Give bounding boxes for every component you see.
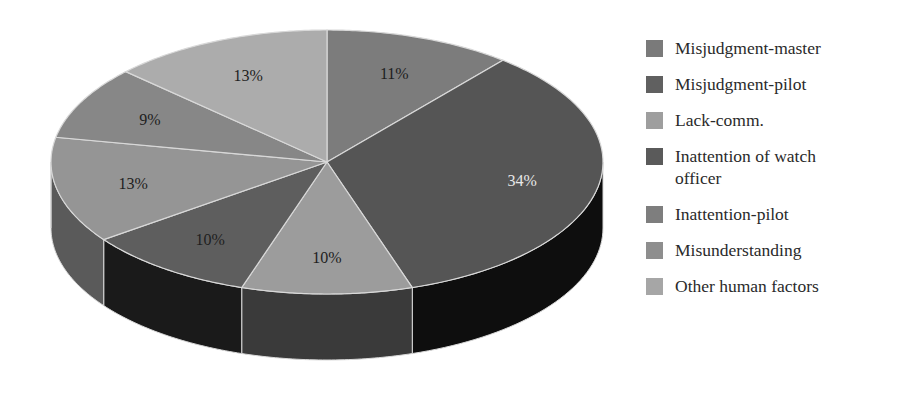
pie-data-label: 13% bbox=[118, 175, 147, 192]
legend-item: Lack-comm. bbox=[646, 109, 896, 131]
pie-data-label: 34% bbox=[508, 172, 537, 189]
legend-label: Other human factors bbox=[675, 275, 819, 297]
legend-label: Lack-comm. bbox=[675, 109, 764, 131]
pie-data-label: 9% bbox=[139, 111, 160, 128]
pie-data-label: 10% bbox=[196, 231, 225, 248]
legend-label: Inattention of watch officer bbox=[675, 145, 835, 189]
legend-label: Inattention-pilot bbox=[675, 203, 789, 225]
legend-item: Misjudgment-master bbox=[646, 37, 896, 59]
legend-item: Inattention of watch officer bbox=[646, 145, 896, 189]
pie-data-label: 10% bbox=[312, 249, 341, 266]
pie-chart-3d: 11%34%10%10%13%9%13% bbox=[0, 0, 640, 396]
legend-label: Misjudgment-pilot bbox=[675, 73, 806, 95]
legend-label: Misjudgment-master bbox=[675, 37, 821, 59]
legend-swatch bbox=[646, 242, 663, 259]
legend-item: Misunderstanding bbox=[646, 239, 896, 261]
legend-item: Other human factors bbox=[646, 275, 896, 297]
legend-swatch bbox=[646, 76, 663, 93]
chart-legend: Misjudgment-master Misjudgment-pilot Lac… bbox=[646, 37, 896, 311]
legend-swatch bbox=[646, 112, 663, 129]
pie-slice-side bbox=[242, 288, 413, 360]
legend-swatch bbox=[646, 148, 663, 165]
legend-item: Inattention-pilot bbox=[646, 203, 896, 225]
pie-data-label: 13% bbox=[233, 67, 262, 84]
legend-swatch bbox=[646, 206, 663, 223]
legend-label: Misunderstanding bbox=[675, 239, 801, 261]
legend-item: Misjudgment-pilot bbox=[646, 73, 896, 95]
legend-swatch bbox=[646, 278, 663, 295]
legend-swatch bbox=[646, 40, 663, 57]
pie-data-label: 11% bbox=[380, 65, 409, 82]
